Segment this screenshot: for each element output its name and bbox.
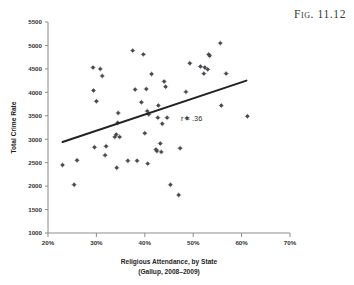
data-point-tick-h [219,105,224,106]
data-point [158,141,163,146]
data-point-tick-h [144,89,149,90]
data-point-tick-h [178,148,183,149]
data-point-tick-h [103,155,108,156]
data-point [98,66,103,71]
data-point-tick-h [149,74,154,75]
correlation-annotation: r = .36 [181,114,202,123]
y-tick-label: 4500 [28,65,42,72]
data-point [74,158,79,163]
data-point-tick-h [91,90,96,91]
data-point-tick-h [98,68,103,69]
data-point [94,99,99,104]
data-point [114,165,119,170]
x-axis-title-line1: Religious Attendance, by State [121,258,218,266]
x-tick-label: 40% [139,239,152,246]
data-point-tick-h [160,123,165,124]
data-point-tick-h [163,86,168,87]
data-point [90,65,95,70]
x-axis-ticks: 20%30%40%50%60%70% [42,233,297,246]
data-point [198,64,203,69]
data-point-tick-h [60,165,65,166]
data-point-tick-h [72,184,77,185]
y-tick-label: 1500 [28,206,42,213]
y-tick-label: 2500 [28,159,42,166]
data-point [162,79,167,84]
data-point [103,153,108,158]
x-tick-label: 70% [284,239,297,246]
data-point [183,89,188,94]
data-point-tick-h [168,184,173,185]
y-axis-ticks: 1000150020002500300035004000450050005500 [28,18,48,236]
data-point [187,61,192,66]
data-point-tick-h [130,50,135,51]
data-point [134,158,139,163]
y-tick-label: 3000 [28,136,42,143]
data-point-tick-h [134,160,139,161]
data-points [60,41,250,198]
scatter-plot: 1000150020002500300035004000450050005500… [0,0,354,285]
data-point [139,100,144,105]
data-point [133,87,138,92]
y-tick-label: 4000 [28,89,42,96]
data-point-tick-h [90,67,95,68]
y-tick-label: 5000 [28,42,42,49]
data-point-tick-h [162,81,167,82]
data-point-tick-h [207,55,212,56]
data-point-tick-h [103,146,108,147]
y-tick-label: 5500 [28,18,42,25]
y-tick-label: 1000 [28,229,42,236]
data-point [218,41,223,46]
data-point [163,84,168,89]
data-point-tick-h [183,91,188,92]
data-point [168,182,173,187]
data-point-tick-h [116,113,121,114]
data-point [160,121,165,126]
data-point-tick-h [74,160,79,161]
data-point [125,158,130,163]
y-axis-title: Total Crime Rate [10,101,17,153]
figure-root: Fig. 11.12 10001500200025003000350040004… [0,0,354,285]
data-point [155,115,160,120]
data-point [142,131,147,136]
data-point-tick-h [92,147,97,148]
x-tick-label: 50% [187,239,200,246]
data-point-tick-h [139,102,144,103]
data-point-tick-h [202,67,207,68]
data-point-tick-h [245,116,250,117]
data-point-tick-h [198,66,203,67]
data-point [176,192,181,197]
x-tick-label: 60% [235,239,248,246]
data-point [219,103,224,108]
data-point [100,73,105,78]
data-point-tick-h [155,117,160,118]
data-point [144,86,149,91]
data-point-tick-h [158,143,163,144]
data-point-tick-h [145,111,150,112]
y-tick-label: 3500 [28,112,42,119]
data-point [164,115,169,120]
data-point-tick-h [187,63,192,64]
data-point-tick-h [142,133,147,134]
x-tick-label: 20% [42,239,55,246]
y-tick-label: 2000 [28,182,42,189]
data-point [159,149,164,154]
data-point [91,88,96,93]
data-point [245,114,250,119]
x-tick-label: 30% [90,239,103,246]
data-point [178,146,183,151]
data-point-tick-h [156,105,161,106]
data-point [92,145,97,150]
data-point-tick-h [224,73,229,74]
data-point-tick-h [94,101,99,102]
data-point-tick-h [117,136,122,137]
data-point [145,161,150,166]
data-point-tick-h [154,150,159,151]
data-point [156,103,161,108]
data-point [72,182,77,187]
data-point [149,71,154,76]
data-point-tick-h [201,73,206,74]
data-point-tick-h [159,151,164,152]
data-point [130,48,135,53]
data-point [60,162,65,167]
data-point-tick-h [125,160,130,161]
